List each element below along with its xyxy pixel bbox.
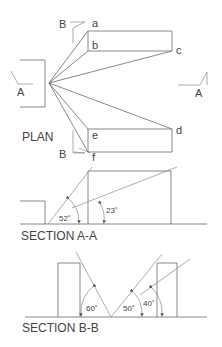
section-b-top-label: B — [59, 18, 66, 30]
section-a-right-label: A — [195, 87, 203, 99]
plan-view: a b c d e f B B A A PLAN — [11, 17, 207, 163]
angle-60-label: 60˚ — [86, 304, 98, 313]
angle-40-label: 40˚ — [143, 299, 155, 308]
angle-50-label: 50˚ — [123, 304, 135, 313]
section-a-left-label: A — [17, 86, 25, 98]
upper-box — [88, 31, 172, 51]
point-b-label: b — [92, 39, 98, 51]
right-wall — [157, 263, 177, 317]
point-a-label: a — [92, 17, 99, 29]
left-step — [20, 201, 45, 224]
section-a-right-marker — [178, 72, 207, 85]
plan-title: PLAN — [22, 130, 53, 144]
plan-left-bracket — [20, 60, 45, 107]
point-f-label: f — [92, 151, 96, 163]
section-bb-title: SECTION B-B — [22, 321, 99, 335]
ray-40 — [140, 259, 190, 295]
section-b-bottom-label: B — [59, 148, 66, 160]
section-aa-title: SECTION A-A — [21, 229, 97, 243]
angle-23-label: 23˚ — [106, 206, 118, 215]
section-aa-view: 52˚ 23˚ SECTION A-A — [20, 167, 207, 243]
point-c-label: c — [176, 44, 182, 56]
lower-box — [88, 129, 172, 152]
section-aa-box — [88, 171, 171, 224]
point-e-label: e — [92, 129, 98, 141]
section-a-left-marker — [11, 71, 33, 84]
angle-arc-23 — [100, 203, 104, 222]
section-bb-view: 60˚ 50˚ 40˚ SECTION B-B — [22, 252, 207, 335]
plan-rays — [49, 31, 172, 152]
angle-52-label: 52˚ — [59, 214, 71, 223]
diagram-canvas: a b c d e f B B A A PLAN 52˚ 23˚ SECTION… — [0, 0, 222, 347]
left-wall — [58, 263, 80, 317]
point-d-label: d — [176, 124, 182, 136]
section-b-top-marker — [70, 22, 85, 43]
